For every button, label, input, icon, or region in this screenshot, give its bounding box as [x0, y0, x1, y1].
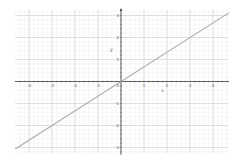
- x-tick-label: 3: [189, 83, 192, 88]
- x-tick-label: 1: [143, 83, 146, 88]
- x-tick-label: -3: [50, 83, 54, 88]
- x-tick-label: 2: [166, 83, 169, 88]
- x-tick-label: -2: [73, 83, 77, 88]
- y-axis-label: y: [109, 46, 113, 53]
- x-tick-label: -1: [96, 83, 100, 88]
- y-tick-label: -2: [115, 123, 119, 128]
- y-axis-arrow-icon: [120, 8, 122, 11]
- function-plot: -4-3-2-11234321-1-2-30 x y: [0, 0, 242, 162]
- y-tick-label: -3: [115, 145, 119, 150]
- x-tick-label: 4: [212, 83, 215, 88]
- x-axis-label: x: [161, 87, 164, 93]
- x-tick-label: -4: [27, 83, 31, 88]
- y-tick-label: -1: [115, 101, 119, 106]
